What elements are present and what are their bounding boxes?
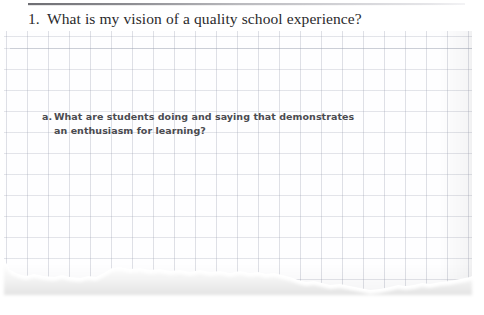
subquestion-text: What are students doing and saying that … xyxy=(54,110,362,138)
question-number: 1. xyxy=(28,9,47,28)
graph-paper-grid xyxy=(4,31,472,295)
question-text: What is my vision of a quality school ex… xyxy=(47,9,362,28)
grid-right-border xyxy=(474,48,475,286)
worksheet-page: 1. What is my vision of a quality school… xyxy=(0,0,484,315)
subquestion-block: a. What are students doing and saying th… xyxy=(42,110,362,138)
subquestion-letter: a. xyxy=(42,110,54,124)
question-heading: 1. What is my vision of a quality school… xyxy=(28,9,458,28)
top-divider-rule-shadow xyxy=(28,5,465,6)
graph-paper-sheet xyxy=(0,31,484,315)
grid-top-border xyxy=(10,48,475,49)
